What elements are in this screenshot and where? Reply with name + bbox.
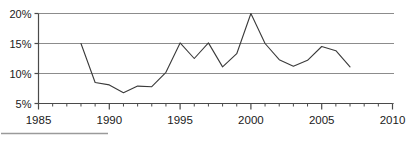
data-line-1: [81, 14, 350, 93]
x-tick-label-1995: 1995: [167, 114, 193, 126]
data-series-group: [81, 14, 350, 93]
y-tick-label-20: 20%: [9, 8, 31, 20]
line-chart: 5%10%15%20% 198519901995200020052010: [0, 0, 413, 141]
x-tick-label-1985: 1985: [26, 114, 52, 126]
x-tick-label-1990: 1990: [97, 114, 123, 126]
y-tick-label-15: 15%: [9, 38, 31, 50]
chart-container: 5%10%15%20% 198519901995200020052010: [0, 0, 413, 141]
x-tick-label-2010: 2010: [380, 114, 406, 126]
y-tick-label-group: 5%10%15%20%: [9, 8, 31, 110]
gridline-group: [39, 14, 395, 104]
x-tick-group: [39, 104, 393, 110]
y-tick-label-5: 5%: [16, 98, 32, 110]
y-tick-label-10: 10%: [9, 68, 31, 80]
x-tick-label-2005: 2005: [309, 114, 335, 126]
x-tick-label-group: 198519901995200020052010: [26, 114, 406, 126]
x-tick-label-2000: 2000: [238, 114, 264, 126]
